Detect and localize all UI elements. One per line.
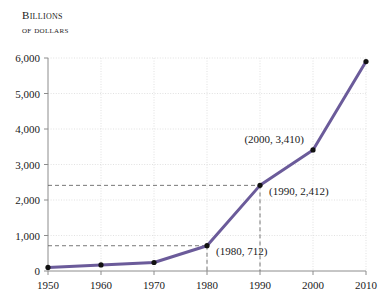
y-axis-tick-label: 1,000 xyxy=(15,230,40,242)
y-axis-tick-label: 5,000 xyxy=(15,88,40,100)
x-axis-tick-label: 2010 xyxy=(355,279,378,291)
y-axis-tick-label: 4,000 xyxy=(15,123,40,135)
point-annotation-label: (1980, 712) xyxy=(216,245,268,258)
y-axis-tick-label: 2,000 xyxy=(15,194,40,206)
data-point-marker xyxy=(98,262,103,267)
gridlines xyxy=(48,58,366,271)
data-point-marker xyxy=(45,265,50,270)
line-chart-plot: 01,0002,0003,0004,0005,0006,000 19501960… xyxy=(0,0,384,303)
point-annotation-label: (1990, 2,412) xyxy=(269,185,329,198)
y-axis-tick-label: 0 xyxy=(35,265,41,277)
x-axis-tick-label: 1990 xyxy=(249,279,272,291)
y-axis-tick-label: 6,000 xyxy=(15,52,40,64)
axis-ticks xyxy=(44,58,366,275)
x-axis-tick-label: 1950 xyxy=(37,279,60,291)
data-point-marker xyxy=(310,147,315,152)
x-axis-tick-labels: 1950196019701980199020002010 xyxy=(37,279,378,291)
data-point-marker xyxy=(363,59,368,64)
data-point-marker xyxy=(204,243,209,248)
x-axis-tick-label: 2000 xyxy=(302,279,325,291)
point-annotation-label: (2000, 3,410) xyxy=(244,133,304,146)
y-axis-tick-label: 3,000 xyxy=(15,159,40,171)
x-axis-tick-label: 1980 xyxy=(196,279,219,291)
leader-lines xyxy=(48,185,260,271)
data-point-marker xyxy=(257,183,262,188)
y-axis-tick-labels: 01,0002,0003,0004,0005,0006,000 xyxy=(15,52,40,277)
x-axis-tick-label: 1960 xyxy=(90,279,113,291)
x-axis-tick-label: 1970 xyxy=(143,279,166,291)
chart-container: Billions of dollars 01,0002,0003,0004,00… xyxy=(0,0,384,303)
data-point-marker xyxy=(151,260,156,265)
